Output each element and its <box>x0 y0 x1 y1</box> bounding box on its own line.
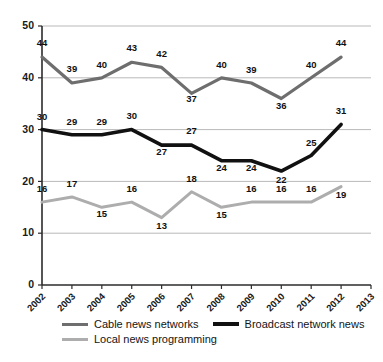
data-label: 44 <box>37 37 48 48</box>
data-label: 15 <box>216 209 227 220</box>
chart-plot-area: 01020304050 2002200320042005200620072008… <box>0 0 383 318</box>
y-axis-tick-label: 40 <box>22 71 34 83</box>
line-chart: 01020304050 2002200320042005200620072008… <box>0 0 383 362</box>
legend-item[interactable]: Local news programming <box>62 333 217 345</box>
data-label: 18 <box>186 173 197 184</box>
data-label: 43 <box>126 42 137 53</box>
series-lines <box>42 57 341 218</box>
data-label: 39 <box>67 63 78 74</box>
legend-item[interactable]: Broadcast network news <box>213 318 365 330</box>
data-label: 30 <box>37 111 48 122</box>
data-label: 40 <box>216 59 227 70</box>
x-axis-tick-label: 2012 <box>324 291 347 314</box>
legend-swatch-icon <box>62 338 88 341</box>
y-axis-tick-label: 30 <box>22 123 34 135</box>
data-label: 27 <box>186 125 197 136</box>
axes <box>42 26 371 285</box>
legend-row-1: Local news programming <box>62 333 383 345</box>
data-label: 16 <box>126 183 137 194</box>
y-axis-tick-label: 50 <box>22 19 34 31</box>
x-axis-tick-label: 2004 <box>85 290 108 313</box>
x-axis-tick-label: 2013 <box>354 291 377 314</box>
legend-label: Broadcast network news <box>245 318 365 330</box>
data-label: 39 <box>246 64 257 75</box>
data-label: 16 <box>276 183 287 194</box>
legend-swatch-icon <box>213 322 239 326</box>
data-label: 24 <box>246 162 257 173</box>
y-axis-tick-label: 20 <box>22 175 34 187</box>
x-axis-tick-label: 2008 <box>204 291 227 314</box>
x-axis-tick-label: 2011 <box>294 290 317 313</box>
y-axis-ticks: 01020304050 <box>22 19 42 290</box>
chart-legend: Cable news networksBroadcast network new… <box>0 318 383 348</box>
data-label: 24 <box>216 162 227 173</box>
x-axis-tick-label: 2007 <box>174 291 197 314</box>
series-line-2 <box>42 187 341 218</box>
data-label: 29 <box>97 116 108 127</box>
y-axis-tick-label: 10 <box>22 226 34 238</box>
data-label: 42 <box>156 48 167 59</box>
legend-label: Local news programming <box>94 333 217 345</box>
x-axis-tick-label: 2006 <box>144 291 167 314</box>
x-axis-tick-label: 2005 <box>114 290 137 313</box>
data-label: 30 <box>126 110 137 121</box>
y-axis-tick-label: 0 <box>28 278 34 290</box>
data-label: 19 <box>336 189 347 200</box>
data-label: 31 <box>336 105 347 116</box>
data-label: 29 <box>67 116 78 127</box>
data-label: 15 <box>97 208 108 219</box>
data-label: 16 <box>306 183 317 194</box>
data-label: 16 <box>37 183 48 194</box>
legend-label: Cable news networks <box>94 318 199 330</box>
legend-row-0: Cable news networksBroadcast network new… <box>62 318 383 330</box>
data-label: 17 <box>67 178 78 189</box>
data-label: 40 <box>306 59 317 70</box>
x-axis-tick-label: 2003 <box>55 291 78 314</box>
data-label: 25 <box>306 137 317 148</box>
data-label: 44 <box>336 37 347 48</box>
x-axis-ticks: 2002200320042005200620072008200920102011… <box>25 285 377 313</box>
x-axis-tick-label: 2002 <box>25 291 48 314</box>
legend-swatch-icon <box>62 323 88 326</box>
data-label: 40 <box>97 59 108 70</box>
data-label: 36 <box>276 100 287 111</box>
data-label: 16 <box>246 183 257 194</box>
data-label: 27 <box>156 146 167 157</box>
data-label: 13 <box>156 220 167 231</box>
x-axis-tick-label: 2010 <box>264 291 287 314</box>
data-label: 37 <box>186 93 197 104</box>
x-axis-tick-label: 2009 <box>234 291 257 314</box>
legend-item[interactable]: Cable news networks <box>62 318 199 330</box>
